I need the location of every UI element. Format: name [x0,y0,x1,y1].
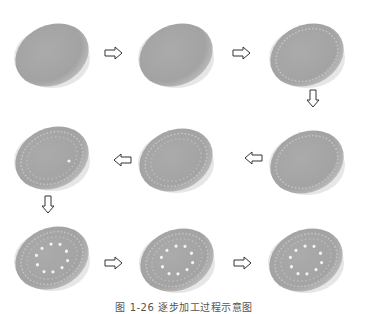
figure-caption: 图 1-26 逐步加工过程示意图 [0,299,368,314]
arrow-left-icon [114,154,131,166]
arrow-down-icon [307,90,319,107]
disc-step-9 [259,217,353,303]
disc-step-4 [260,119,354,205]
disc-step-2 [129,12,223,98]
arrow-right-icon [105,257,122,269]
disc-step-6 [5,115,99,201]
disc-step-7 [5,215,99,301]
arrow-right-icon [233,47,250,59]
arrow-right-icon [105,47,122,59]
disc-step-5 [129,117,223,203]
arrow-right-icon [234,257,251,269]
arrow-left-icon [245,152,262,164]
disc-step-8 [130,217,224,303]
disc-step-3 [260,12,354,98]
arrow-down-icon [42,196,54,213]
disc-step-1 [5,12,99,98]
